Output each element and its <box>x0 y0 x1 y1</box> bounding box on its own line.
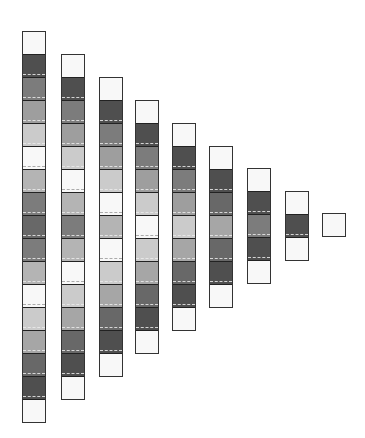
dashed-divider <box>100 258 122 259</box>
dashed-divider <box>62 304 84 305</box>
dashed-divider <box>248 234 270 235</box>
segment-mid <box>248 215 270 238</box>
segment-dark <box>23 55 45 78</box>
segment-mid-dark <box>210 193 232 216</box>
segment-light <box>23 124 45 147</box>
segment-column-9 <box>322 213 346 237</box>
segment-white <box>62 55 84 78</box>
segment-mid-light <box>136 262 158 285</box>
dashed-divider <box>136 327 158 328</box>
dashed-divider <box>23 304 45 305</box>
segment-light <box>62 285 84 308</box>
segment-mid-dark <box>100 308 122 331</box>
dashed-divider <box>136 304 158 305</box>
dashed-divider <box>23 120 45 121</box>
dashed-divider <box>100 143 122 144</box>
segment-lighter <box>136 170 158 193</box>
segment-dark <box>100 331 122 354</box>
segment-dark <box>248 192 270 215</box>
segment-white <box>100 193 122 216</box>
segment-dark <box>210 170 232 193</box>
dashed-divider <box>173 166 195 167</box>
dashed-divider <box>210 189 232 190</box>
segment-dark <box>136 308 158 331</box>
segment-white <box>100 78 122 101</box>
dashed-divider <box>173 258 195 259</box>
segment-mid-light <box>23 331 45 354</box>
segment-mid-dark <box>62 331 84 354</box>
dashed-divider <box>62 350 84 351</box>
dashed-divider <box>136 189 158 190</box>
dashed-divider <box>210 258 232 259</box>
segment-column-2 <box>61 54 85 400</box>
segment-light <box>62 147 84 170</box>
segment-mid <box>23 78 45 101</box>
dashed-divider <box>23 235 45 236</box>
segment-mid-dark <box>210 239 232 262</box>
segment-white <box>62 262 84 285</box>
dashed-divider <box>136 166 158 167</box>
segment-light <box>173 216 195 239</box>
segment-column-7 <box>247 168 271 284</box>
dashed-divider <box>100 350 122 351</box>
dashed-divider <box>100 281 122 282</box>
segment-white <box>286 192 308 215</box>
stacked-segment-diagram <box>0 0 365 438</box>
segment-white <box>62 377 84 399</box>
dashed-divider <box>23 189 45 190</box>
segment-mid-dark <box>23 354 45 377</box>
dashed-divider <box>62 258 84 259</box>
dashed-divider <box>62 327 84 328</box>
segment-dark <box>62 354 84 377</box>
dashed-divider <box>62 120 84 121</box>
segment-white <box>323 214 345 236</box>
dashed-divider <box>62 189 84 190</box>
dashed-divider <box>100 212 122 213</box>
segment-dark <box>100 101 122 124</box>
segment-lighter <box>100 147 122 170</box>
dashed-divider <box>173 304 195 305</box>
segment-white <box>173 124 195 147</box>
segment-white <box>23 32 45 55</box>
segment-white <box>100 239 122 262</box>
segment-mid-light <box>210 216 232 239</box>
segment-white <box>286 238 308 260</box>
dashed-divider <box>23 258 45 259</box>
dashed-divider <box>210 212 232 213</box>
dashed-divider <box>136 143 158 144</box>
dashed-divider <box>100 189 122 190</box>
dashed-divider <box>62 235 84 236</box>
segment-white <box>210 285 232 307</box>
dashed-divider <box>136 212 158 213</box>
segment-light-mid <box>23 262 45 285</box>
segment-mid-dark <box>23 216 45 239</box>
segment-white <box>23 285 45 308</box>
segment-white <box>136 216 158 239</box>
segment-white <box>210 147 232 170</box>
segment-dark <box>136 124 158 147</box>
segment-lighter <box>62 124 84 147</box>
dashed-divider <box>100 304 122 305</box>
dashed-divider <box>23 212 45 213</box>
dashed-divider <box>23 281 45 282</box>
segment-mid <box>136 147 158 170</box>
segment-lighter <box>23 101 45 124</box>
segment-mid <box>62 101 84 124</box>
segment-white <box>62 170 84 193</box>
segment-white <box>248 169 270 192</box>
segment-column-1 <box>22 31 46 423</box>
segment-mid <box>23 193 45 216</box>
segment-mid-light <box>100 285 122 308</box>
segment-white <box>136 101 158 124</box>
segment-light <box>136 193 158 216</box>
dashed-divider <box>23 97 45 98</box>
dashed-divider <box>210 235 232 236</box>
segment-light <box>100 170 122 193</box>
dashed-divider <box>62 143 84 144</box>
segment-column-4 <box>135 100 159 354</box>
dashed-divider <box>100 166 122 167</box>
segment-mid-dark <box>136 285 158 308</box>
segment-light <box>136 239 158 262</box>
dashed-divider <box>136 258 158 259</box>
segment-white <box>173 308 195 330</box>
